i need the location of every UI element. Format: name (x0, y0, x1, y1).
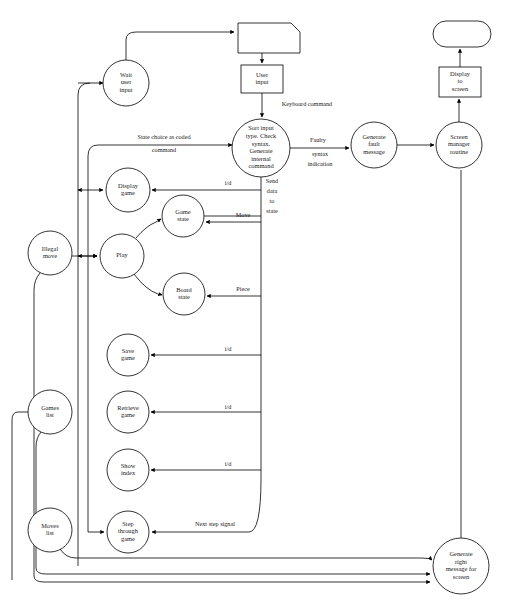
node-moves-list[interactable]: Moveslist (28, 508, 72, 552)
screen-manager-label-line: Screen (450, 133, 468, 140)
flow-connectors (12, 32, 461, 582)
moves-list-label-line: Moves (41, 522, 59, 529)
edge-label-piece: Piece (236, 285, 250, 292)
generate-fault-label-line: message (363, 148, 385, 155)
sort-input-label-line: type. Check (246, 132, 277, 139)
generate-right-msg-label-line: screen (453, 573, 470, 580)
game-state-label-line: Game (175, 208, 190, 215)
play-label-line: Play (116, 251, 128, 258)
sort-input-label-line: Sort input (248, 124, 274, 131)
sort-input-label-line: internal (251, 155, 271, 162)
dataflow-diagram: UserinputWaituserinputSort inputtype. Ch… (0, 0, 506, 601)
step-through-game-label-line: through (118, 527, 139, 534)
display-game-label-line: Display (118, 182, 139, 189)
edge-label-id-retrieve-game: i/d (225, 403, 232, 410)
wait-user-input-label-line: Wait (120, 71, 132, 78)
edge-label-faulty-1: Faulty (310, 136, 327, 143)
step-through-game-label-line: Step (122, 520, 133, 527)
moves-list-label-line: list (46, 529, 54, 536)
edge-label-id-show-index: i/d (225, 460, 232, 467)
node-sort-input[interactable]: Sort inputtype. Checksyntax.Generateinte… (232, 119, 290, 177)
node-retrieve-game[interactable]: Retrievegame (107, 391, 149, 433)
display-game-label-line: game (121, 189, 135, 196)
node-games-list[interactable]: Gameslist (28, 390, 72, 434)
show-index-label-line: Show (121, 462, 136, 469)
edge-label-send-data-2: data (267, 187, 278, 194)
display-to-screen-label-line: Display (450, 70, 471, 77)
node-generate-fault[interactable]: Generatefaultmessage (351, 122, 397, 168)
edge-label-id-save-game: i/d (225, 345, 232, 352)
node-screen-sink[interactable] (433, 21, 491, 47)
wait-user-input-label-line: input (119, 86, 132, 93)
node-illegal-move[interactable]: Illegalmove (28, 231, 72, 275)
generate-right-msg-label-line: message for (446, 565, 478, 572)
node-screen-manager[interactable]: Screenmanagerroutine (436, 122, 482, 168)
external-source-shape (238, 23, 300, 53)
screen-manager-label-line: manager (448, 140, 471, 147)
illegal-move-label-line: move (43, 252, 57, 259)
flow-wait-to-source (126, 32, 234, 60)
flow-play-to-board-state (134, 274, 162, 295)
node-wait-user-input[interactable]: Waituserinput (103, 60, 149, 106)
edge-label-send-data-1: Send (266, 177, 279, 184)
edge-label-state-choice-1: State choice as coded (137, 133, 191, 140)
step-through-game-label-line: game (121, 535, 135, 542)
edge-label-send-data-3: to (270, 197, 275, 204)
board-state-label-line: state (178, 293, 190, 300)
flow-illegal-move-out (34, 273, 430, 582)
generate-fault-label-line: Generate (362, 133, 385, 140)
sort-input-label-line: syntax. (252, 140, 271, 147)
generate-right-msg-label-line: Generate (449, 550, 472, 557)
edge-label-send-data-4: state (266, 207, 278, 214)
board-state-label-line: Board (176, 286, 192, 293)
generate-fault-label-line: fault (368, 140, 380, 147)
node-show-index[interactable]: Showindex (107, 449, 149, 491)
retrieve-game-label-line: game (121, 411, 135, 418)
games-list-label-line: Games (41, 404, 59, 411)
node-external-source[interactable] (238, 23, 300, 53)
node-generate-right-msg[interactable]: Generaterightmessage forscreen (433, 538, 489, 594)
sort-input-label-line: Generate (249, 147, 272, 154)
edge-label-faulty-2: syntax (312, 150, 329, 157)
user-input-label-line: input (255, 78, 268, 85)
flow-play-to-game-state (136, 219, 161, 238)
retrieve-game-label-line: Retrieve (117, 404, 139, 411)
edge-label-move: Move (236, 211, 251, 218)
user-input-label-line: User (256, 71, 269, 78)
node-user-input[interactable]: Userinput (241, 65, 283, 93)
generate-right-msg-label-line: right (455, 558, 467, 565)
game-state-label-line: state (177, 215, 189, 222)
sort-input-label-line: command (248, 162, 274, 169)
show-index-label-line: index (121, 469, 136, 476)
node-step-through-game[interactable]: Stepthroughgame (107, 511, 149, 553)
node-play[interactable]: Play (100, 234, 144, 278)
screen-sink-shape (433, 21, 491, 47)
edge-label-state-choice-2: command (152, 146, 177, 153)
edge-labels-layer: Keyboard commandState choice as codedcom… (137, 100, 333, 527)
games-list-label-line: list (46, 411, 54, 418)
edge-label-next-step-signal: Next step signal (195, 520, 235, 527)
diagram-canvas: UserinputWaituserinputSort inputtype. Ch… (0, 0, 506, 601)
node-display-game[interactable]: Displaygame (106, 168, 150, 212)
save-game-label-line: Save (122, 347, 135, 354)
save-game-label-line: game (121, 354, 135, 361)
node-game-state[interactable]: Gamestate (162, 195, 204, 237)
node-save-game[interactable]: Savegame (107, 334, 149, 376)
edge-label-keyboard-command: Keyboard command (282, 100, 333, 107)
wait-user-input-label-line: user (121, 78, 133, 85)
node-board-state[interactable]: Boardstate (163, 273, 205, 315)
screen-manager-label-line: routine (450, 148, 468, 155)
edge-label-faulty-3: indication (308, 160, 333, 167)
flow-games-list-out (36, 431, 430, 574)
illegal-move-label-line: Illegal (42, 245, 59, 252)
display-to-screen-label-line: to (458, 77, 463, 84)
display-to-screen-label-line: screen (452, 85, 469, 92)
node-display-to-screen[interactable]: Displaytoscreen (439, 67, 481, 97)
flow-moves-list-out (60, 549, 432, 560)
edge-label-id-display-game: i/d (225, 179, 232, 186)
flow-games-list-stub (12, 412, 28, 580)
